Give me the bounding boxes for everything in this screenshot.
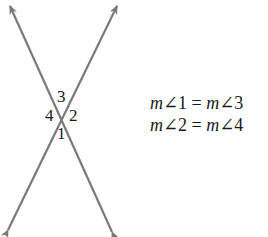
angle-label-4: 4 <box>45 107 54 124</box>
measure-symbol: m <box>206 93 219 113</box>
angle-label-1: 1 <box>57 125 66 142</box>
equation-2-4: m∠2 = m∠4 <box>150 114 243 136</box>
angle-label-2: 2 <box>69 107 78 124</box>
angle-equations: m∠1 = m∠3 m∠2 = m∠4 <box>150 92 243 136</box>
angle-ref: ∠2 <box>163 115 187 135</box>
angle-ref: ∠1 <box>163 93 187 113</box>
measure-symbol: m <box>150 93 163 113</box>
angle-ref: ∠3 <box>219 93 243 113</box>
measure-symbol: m <box>206 115 219 135</box>
vertical-angles-diagram: 3 4 2 1 m∠1 = m∠3 m∠2 = m∠4 <box>0 0 268 237</box>
angle-ref: ∠4 <box>219 115 243 135</box>
equals-sign: = <box>187 93 206 113</box>
angle-label-3: 3 <box>57 88 66 105</box>
equation-1-3: m∠1 = m∠3 <box>150 92 243 114</box>
measure-symbol: m <box>150 115 163 135</box>
equals-sign: = <box>187 115 206 135</box>
